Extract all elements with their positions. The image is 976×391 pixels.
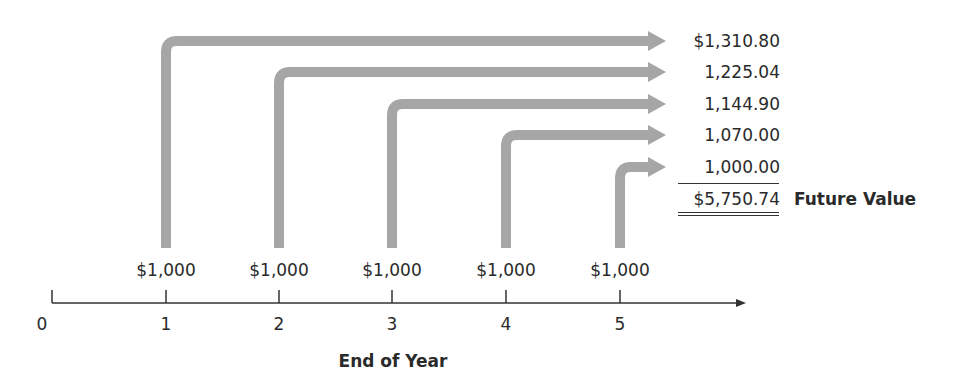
- future-value-year-2: 1,225.04: [650, 62, 780, 82]
- deposit-year-4: $1,000: [461, 260, 551, 280]
- double-underline-bottom: [678, 215, 779, 216]
- tick-label-0: 0: [27, 314, 57, 334]
- flow-arrow-year-3: [392, 104, 650, 248]
- tick-label-4: 4: [491, 314, 521, 334]
- tick-label-1: 1: [151, 314, 181, 334]
- tick-label-3: 3: [377, 314, 407, 334]
- axis-arrowhead-icon: [736, 299, 746, 307]
- future-value-year-5: 1,000.00: [650, 157, 780, 177]
- sum-underline: [678, 183, 779, 184]
- deposit-year-5: $1,000: [575, 260, 665, 280]
- future-value-total: $5,750.74: [650, 189, 780, 209]
- axis-title: End of Year: [326, 351, 460, 371]
- double-underline-top: [678, 212, 779, 213]
- flow-arrow-year-4: [506, 135, 650, 248]
- deposit-year-1: $1,000: [121, 260, 211, 280]
- future-value-label: Future Value: [794, 189, 916, 209]
- annuity-timeline-diagram: $1,310.80 1,225.04 1,144.90 1,070.00 1,0…: [0, 0, 976, 391]
- deposit-year-2: $1,000: [234, 260, 324, 280]
- future-value-year-1: $1,310.80: [650, 31, 780, 51]
- tick-label-2: 2: [264, 314, 294, 334]
- flow-arrow-year-2: [279, 72, 650, 248]
- deposit-year-3: $1,000: [347, 260, 437, 280]
- future-value-year-4: 1,070.00: [650, 125, 780, 145]
- tick-label-5: 5: [605, 314, 635, 334]
- flow-arrow-year-5: [620, 167, 650, 248]
- future-value-year-3: 1,144.90: [650, 94, 780, 114]
